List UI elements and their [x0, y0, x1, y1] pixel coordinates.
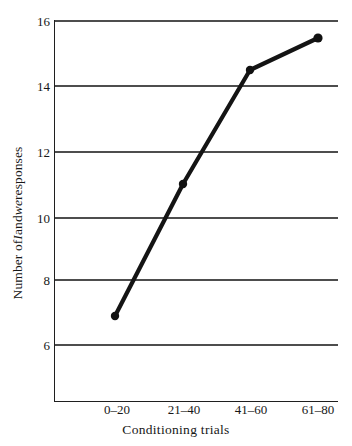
x-axis-tick-labels: 0–20 21–40 41–60 61–80 — [0, 403, 352, 423]
data-point-61-80 — [313, 33, 322, 42]
data-point-21-40 — [179, 180, 187, 188]
gridlines-horizontal — [54, 21, 338, 345]
x-tick-label-41-60: 41–60 — [235, 403, 268, 416]
x-tick-label-21-40: 21–40 — [168, 403, 201, 416]
x-tick-label-61-80: 61–80 — [302, 403, 335, 416]
data-line-series-0 — [115, 38, 318, 316]
x-axis-title: Conditioning trials — [0, 422, 352, 438]
data-markers-series-0 — [111, 33, 323, 320]
data-point-41-60 — [246, 66, 254, 74]
chart-figure: Number of I and we responses 16 14 12 10… — [0, 0, 352, 446]
x-tick-label-0-20: 0–20 — [104, 403, 130, 416]
data-point-0-20 — [111, 312, 119, 320]
plot-area — [0, 0, 352, 446]
